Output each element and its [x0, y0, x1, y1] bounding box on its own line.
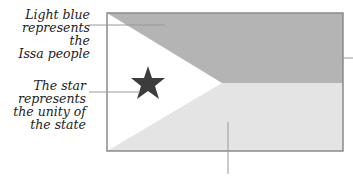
- label-line: Issa people: [0, 47, 90, 60]
- label-line: represents the: [0, 21, 90, 47]
- flag: [107, 13, 343, 151]
- label-light-blue: Light blue represents the Issa people: [0, 8, 90, 60]
- label-star: The star represents the unity of the sta…: [0, 79, 86, 131]
- label-line: the state: [0, 118, 86, 131]
